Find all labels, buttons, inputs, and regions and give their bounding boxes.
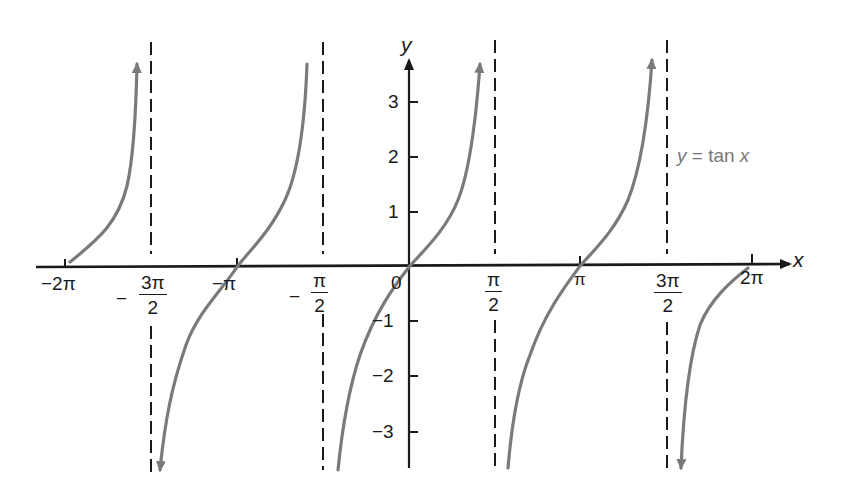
y-tick-neg-1: −1 [372,311,394,330]
x-tick-pi-2: π 2 [485,270,502,314]
x-tick-zero: 0 [391,273,402,292]
x-tick-neg-pi-2-minus: − [289,286,300,308]
y-tick-1: 1 [388,202,399,221]
x-tick-pi: π [574,271,586,288]
y-tick-3: 3 [388,92,399,111]
x-axis-label: x [793,249,804,270]
x-tick-neg-pi-2: π 2 [311,271,328,315]
y-axis-label: y [401,34,412,55]
tan-branch-5 [681,268,748,468]
function-label: y = tan x [677,145,749,167]
tan-graph [0,0,850,500]
x-tick-2pi: 2π [740,268,764,287]
x-tick-neg-pi: −π [212,274,236,293]
x-tick-neg-3pi-2-minus: − [116,288,127,310]
function-label-eq: = tan [687,145,740,166]
function-label-y: y [677,145,687,166]
x-tick-3pi-2: 3π 2 [654,271,682,315]
y-tick-2: 2 [388,147,399,166]
function-label-x: x [740,145,750,166]
y-tick-neg-2: −2 [372,366,394,385]
y-tick-neg-3: −3 [372,422,394,441]
x-tick-neg-2pi: −2π [41,274,76,293]
x-tick-neg-3pi-2: 3π 2 [139,273,167,317]
tan-branch-1 [70,64,137,262]
